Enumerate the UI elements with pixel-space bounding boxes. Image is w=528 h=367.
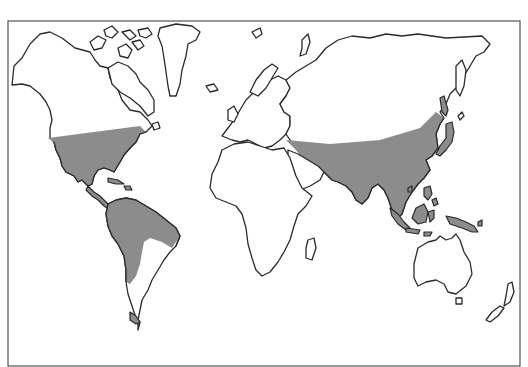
arctic-island [132,40,144,50]
new-zealand-south [486,306,504,322]
kuril-island [458,112,464,120]
caribbean-island-cuba [108,178,124,184]
australia [414,234,472,294]
new-guinea-shaded [446,216,478,232]
philippines-shaded [424,186,432,200]
arctic-island [90,36,106,50]
arctic-island [118,44,132,58]
world-map [0,0,528,367]
lesser-sunda-shaded [424,232,432,236]
new-zealand-north [504,282,514,306]
tasmania [456,298,462,304]
madagascar [306,238,316,260]
pacific-island-shaded [478,220,482,226]
svalbard [252,28,262,38]
map-canvas [0,0,528,367]
java-shaded [406,228,420,234]
arctic-island [104,26,118,38]
kamchatka [456,60,466,96]
caribbean-island-hispaniola [124,186,132,190]
novaya-zemlya [300,34,310,56]
arctic-island [138,28,152,38]
arctic-island [122,30,136,40]
island-shaded [432,198,438,206]
iceland [206,84,218,92]
central-america-shaded [86,186,110,210]
sulawesi-shaded [428,210,434,222]
greenland [158,24,200,96]
newfoundland [152,122,160,130]
borneo-shaded [412,204,428,224]
